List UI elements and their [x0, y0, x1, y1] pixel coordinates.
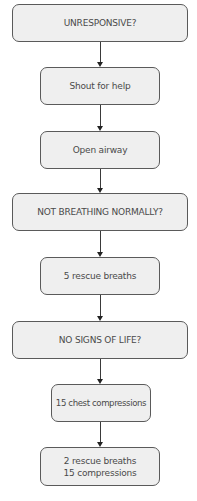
- arrow-down-icon: [99, 169, 101, 193]
- node-label: 15 chest compressions: [56, 397, 146, 409]
- node-5-rescue-breaths: 5 rescue breaths: [40, 257, 160, 295]
- node-no-signs-of-life: NO SIGNS OF LIFE?: [12, 321, 188, 359]
- arrow-down-icon: [99, 105, 101, 131]
- node-label-line1: 2 rescue breaths: [64, 455, 136, 467]
- node-unresponsive: UNRESPONSIVE?: [12, 4, 188, 42]
- node-not-breathing-normally: NOT BREATHING NORMALLY?: [12, 193, 188, 231]
- node-label: NOT BREATHING NORMALLY?: [37, 206, 163, 218]
- node-label: NO SIGNS OF LIFE?: [59, 334, 141, 346]
- node-label: 5 rescue breaths: [64, 270, 136, 282]
- arrow-down-icon: [99, 42, 101, 67]
- node-label-line2: 15 compressions: [63, 467, 136, 479]
- node-label: UNRESPONSIVE?: [64, 17, 137, 29]
- arrow-down-icon: [99, 295, 101, 321]
- node-label: Open airway: [73, 144, 128, 156]
- node-15-chest-compressions: 15 chest compressions: [51, 384, 151, 422]
- node-label: Shout for help: [70, 80, 131, 92]
- node-shout-for-help: Shout for help: [40, 67, 160, 105]
- node-open-airway: Open airway: [40, 131, 160, 169]
- arrow-down-icon: [99, 231, 101, 257]
- arrow-down-icon: [99, 359, 101, 384]
- node-breaths-compressions-cycle: 2 rescue breaths 15 compressions: [40, 447, 160, 486]
- arrow-down-icon: [99, 422, 101, 447]
